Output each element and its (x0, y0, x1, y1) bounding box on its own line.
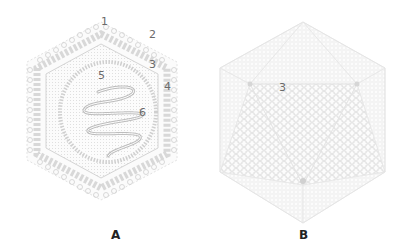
callout-a-2: 2 (149, 29, 156, 40)
callout-a-4: 4 (164, 81, 171, 92)
callout-a-1: 1 (101, 16, 108, 27)
callout-a-6: 6 (139, 107, 146, 118)
callout-a-5: 5 (98, 70, 105, 81)
callout-a-3: 3 (149, 59, 156, 70)
panel-label-a: A (111, 229, 120, 241)
icosahedral-capsid (220, 22, 385, 223)
virus-cross-section (27, 22, 177, 200)
callout-b-3: 3 (279, 82, 286, 93)
virus-diagrams (0, 0, 404, 249)
panel-label-b: B (299, 229, 308, 241)
